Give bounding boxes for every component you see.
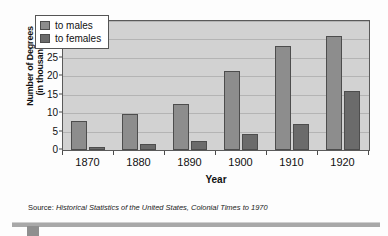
bar-1910-to-females — [293, 124, 310, 150]
x-tick-mark-3 — [215, 151, 216, 155]
bar-1900-to-females — [242, 134, 259, 150]
gridline-25 — [63, 58, 369, 59]
y-tick-label-25: 25 — [47, 51, 58, 62]
x-tick-mark-0 — [62, 151, 63, 155]
legend-item-to-females: to females — [40, 32, 101, 45]
decorative-bottom-rule — [12, 222, 380, 227]
bar-1870-to-females — [89, 147, 106, 150]
source-note: Source: Historical Statistics of the Uni… — [28, 203, 268, 212]
legend-label-males: to males — [55, 20, 93, 31]
legend-swatch-icon-females — [40, 34, 50, 43]
legend-item-to-males: to males — [40, 19, 101, 32]
y-tick-mark-5 — [59, 130, 62, 131]
y-tick-mark-25 — [59, 56, 62, 57]
chart-area: Number of Degrees (in thousands) 0510152… — [13, 6, 375, 194]
gridline-10 — [63, 113, 369, 114]
source-label: Source: — [28, 203, 54, 212]
bar-1920-to-males — [326, 36, 343, 150]
chart-legend: to males to females — [35, 15, 109, 49]
bar-1890-to-males — [173, 104, 190, 150]
y-tick-mark-0 — [59, 149, 62, 150]
x-tick-mark-end — [368, 151, 369, 155]
bar-1870-to-males — [71, 121, 88, 150]
legend-label-females: to females — [55, 33, 101, 44]
x-tick-mark-4 — [266, 151, 267, 155]
y-tick-label-5: 5 — [52, 125, 58, 136]
x-tick-label-1920: 1920 — [330, 156, 354, 168]
bar-1910-to-males — [275, 46, 292, 150]
x-tick-label-1880: 1880 — [126, 156, 150, 168]
x-axis-title: Year — [62, 174, 370, 185]
bar-1890-to-females — [191, 141, 208, 150]
gridline-5 — [63, 132, 369, 133]
source-title: Historical Statistics of the United Stat… — [56, 203, 268, 212]
bar-1880-to-females — [140, 144, 157, 150]
x-tick-mark-2 — [164, 151, 165, 155]
x-tick-label-1890: 1890 — [177, 156, 201, 168]
x-tick-mark-1 — [113, 151, 114, 155]
gridline-15 — [63, 95, 369, 96]
x-tick-label-1910: 1910 — [279, 156, 303, 168]
x-tick-mark-5 — [317, 151, 318, 155]
y-tick-mark-20 — [59, 75, 62, 76]
legend-swatch-icon-males — [40, 21, 50, 30]
bar-1880-to-males — [122, 114, 139, 150]
y-tick-label-10: 10 — [47, 107, 58, 118]
bar-1900-to-males — [224, 71, 241, 150]
y-tick-mark-10 — [59, 112, 62, 113]
y-axis-title-line-1: Number of Degrees — [25, 26, 35, 106]
y-tick-mark-15 — [59, 93, 62, 94]
gridline-20 — [63, 76, 369, 77]
x-tick-label-1870: 1870 — [75, 156, 99, 168]
bar-1920-to-females — [344, 91, 361, 150]
bar-chart-figure: Number of Degrees (in thousands) 0510152… — [0, 0, 388, 236]
decorative-bottom-tab — [27, 226, 39, 236]
y-tick-label-20: 20 — [47, 70, 58, 81]
y-tick-label-0: 0 — [52, 144, 58, 155]
x-tick-label-1900: 1900 — [228, 156, 252, 168]
y-tick-label-15: 15 — [47, 88, 58, 99]
